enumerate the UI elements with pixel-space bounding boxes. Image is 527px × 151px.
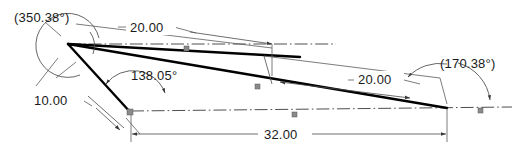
angle-arc-350-inner [90,32,94,54]
extension-tick-left-10 [126,118,140,134]
cad-drawing-canvas: (350.38°) 20.00 138.05° 20.00 (170.38°) … [0,0,527,151]
dim-label-lead-left-10 [84,101,92,106]
constraint-marker-bottom-left[interactable] [127,109,133,115]
dimension-label-left-10-text[interactable]: 10.00 [34,93,68,108]
extension-line-left-10 [36,58,58,86]
extension-tick-right-20 [264,56,272,84]
centerline-base-horizontal [131,107,512,111]
dimension-arrow-left-10 [96,108,120,130]
angle-label-350[interactable]: (350.38°) [14,10,69,25]
constraint-marker-top-centerline[interactable] [184,46,189,51]
leader-angle-350-b [56,62,76,78]
extension-tick-right-20-b [440,78,447,104]
dim-label-lead-right-right [404,80,420,84]
extension-line-right-20 [264,56,440,78]
angle-label-170[interactable]: (170.38°) [440,56,495,71]
constraint-marker-right-centerline[interactable] [478,108,483,113]
dimension-label-top-20-text[interactable]: 20.00 [130,20,164,35]
angle-label-138[interactable]: 138.05° [131,68,177,83]
dim-label-lead-top-right [174,27,196,33]
drawing-svg: (350.38°) 20.00 138.05° 20.00 (170.38°) … [0,0,527,151]
dimension-label-right-20-text[interactable]: 20.00 [358,72,392,87]
constraint-marker-mid-long-edge[interactable] [255,84,260,89]
constraint-marker-base-centerline[interactable] [292,112,297,117]
dimension-label-base-32-text[interactable]: 32.00 [264,127,298,142]
dimension-line-top-20 [190,32,272,44]
